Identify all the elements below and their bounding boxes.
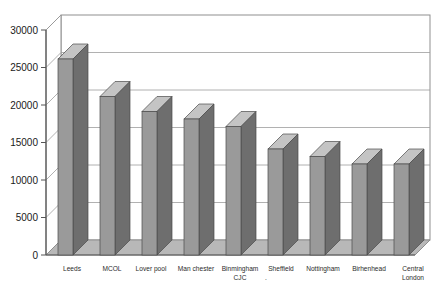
bar-man-chester — [184, 104, 214, 255]
bar-front-face — [394, 164, 409, 255]
bar-side-face — [115, 82, 130, 256]
x-category-label-birhenhead: Birhenhead — [352, 265, 386, 272]
bar-side-face — [325, 142, 340, 256]
bar-sheffield — [268, 134, 298, 255]
bar-side-face — [199, 104, 214, 255]
bar-side-face — [241, 112, 256, 256]
chart-canvas: 0 5000 10000 15000 20000 25000 30000 — [0, 0, 447, 293]
bar-birhenhead — [352, 149, 382, 255]
y-tick-label-10000: 10000 — [10, 175, 38, 186]
y-tick-label-20000: 20000 — [10, 100, 38, 111]
bar-front-face — [268, 149, 283, 255]
bar-chart: 0 5000 10000 15000 20000 25000 30000 — [0, 0, 447, 293]
x-category-label-binmingham-line1: Binmingham — [222, 265, 259, 273]
y-tick-label-25000: 25000 — [10, 62, 38, 73]
bar-lover-pool — [142, 97, 172, 256]
x-category-label-central-line2: London — [402, 274, 424, 281]
bar-front-face — [226, 127, 241, 256]
bar-side-face — [283, 134, 298, 255]
bar-leeds — [58, 44, 88, 255]
bar-binmingham-cjc — [226, 112, 256, 256]
x-category-label-nottingham: Nottingham — [306, 265, 340, 273]
bar-mcol — [100, 82, 130, 256]
bar-side-face — [367, 149, 382, 255]
y-tick-label-5000: 5000 — [16, 212, 39, 223]
bar-front-face — [142, 112, 157, 256]
bar-central-london — [394, 149, 424, 255]
bar-front-face — [310, 157, 325, 256]
bar-nottingham — [310, 142, 340, 256]
x-category-label-leeds: Leeds — [63, 265, 82, 272]
bar-side-face — [157, 97, 172, 256]
bar-front-face — [100, 97, 115, 256]
x-category-label-lover-pool: Lover pool — [136, 265, 167, 273]
x-category-label-sheffield: Sheffield — [268, 265, 294, 272]
y-tick-label-0: 0 — [32, 250, 38, 261]
x-category-label-central-line1: Central — [402, 265, 424, 272]
bar-front-face — [184, 119, 199, 255]
x-category-label-mcol: MCOL — [102, 265, 121, 272]
bar-front-face — [352, 164, 367, 255]
x-category-label-binmingham-line2: CJC — [234, 274, 247, 281]
x-category-label-man-chester: Man chester — [178, 265, 215, 272]
stray-dot-mark: . — [265, 274, 267, 281]
bar-side-face — [73, 44, 88, 255]
y-tick-label-15000: 15000 — [10, 137, 38, 148]
bar-side-face — [409, 149, 424, 255]
bar-front-face — [58, 59, 73, 255]
y-tick-label-30000: 30000 — [10, 25, 38, 36]
